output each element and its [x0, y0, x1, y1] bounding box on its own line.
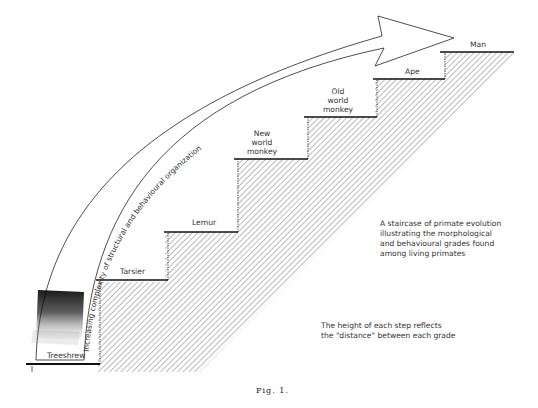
height-note: The height of each step reflects the "di… — [320, 321, 456, 340]
step-label-old-world-monkey: Old world monkey — [323, 87, 354, 114]
svg-text:monkey: monkey — [323, 105, 354, 114]
step-label-ape: Ape — [405, 67, 420, 76]
figure-caption: Fig. 1. — [256, 386, 289, 395]
svg-text:monkey: monkey — [247, 147, 278, 156]
step-label-treeshrew: Treeshrew — [46, 351, 85, 360]
step-label-man: Man — [470, 40, 486, 49]
svg-text:world: world — [252, 138, 273, 147]
svg-text:world: world — [328, 96, 349, 105]
svg-text:and behavioural grades found: and behavioural grades found — [380, 239, 494, 248]
svg-text:Old: Old — [332, 87, 345, 96]
svg-text:among living primates: among living primates — [380, 249, 465, 258]
svg-text:illustrating the morphological: illustrating the morphological — [380, 229, 492, 238]
staircase-diagram: Increasing complexity of structural and … — [0, 0, 538, 408]
step-label-new-world-monkey: New world monkey — [247, 129, 278, 156]
svg-text:A staircase of primate evoluti: A staircase of primate evolution — [380, 219, 501, 228]
svg-text:the "distance" between each gr: the "distance" between each grade — [321, 331, 456, 340]
step-label-lemur: Lemur — [192, 218, 217, 227]
svg-text:New: New — [254, 129, 271, 138]
svg-text:The height of each step reflec: The height of each step reflects — [320, 321, 442, 330]
step-label-tarsier: Tarsier — [119, 267, 146, 276]
